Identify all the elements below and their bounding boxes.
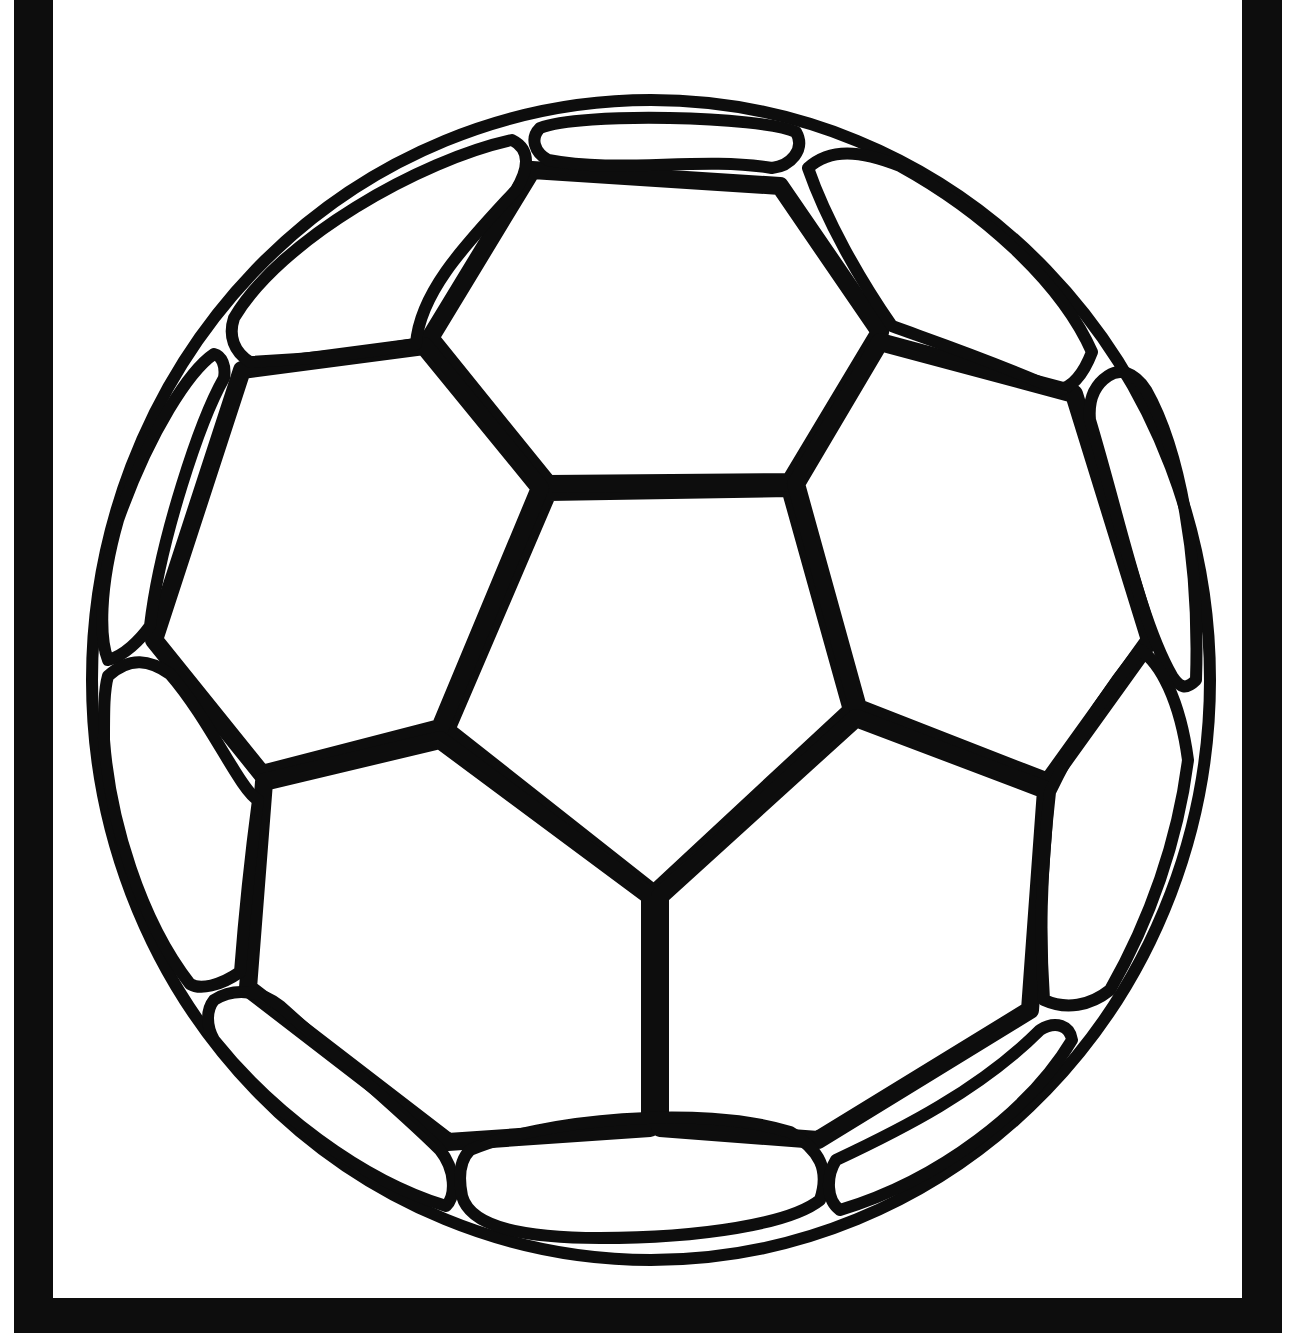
coloring-page	[0, 0, 1312, 1333]
soccer-ball-icon	[0, 0, 1312, 1333]
